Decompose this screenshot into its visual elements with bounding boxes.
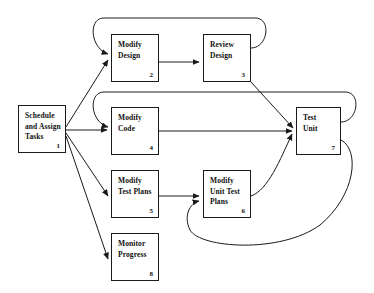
- node-label: Modify Unit Test Plans: [210, 176, 250, 208]
- node-label: Monitor Progress: [118, 239, 158, 260]
- node-test-unit[interactable]: Test Unit 7: [296, 107, 341, 155]
- node-label: Modify Design: [118, 40, 158, 61]
- node-label: Review Design: [210, 40, 250, 61]
- edge-6-to-7: [251, 134, 292, 196]
- node-modify-code[interactable]: Modify Code 4: [111, 107, 159, 155]
- node-modify-test-plans[interactable]: Modify Test Plans 5: [111, 170, 159, 218]
- node-schedule-and-assign-tasks[interactable]: Schedule and Assign Tasks 1: [18, 105, 66, 153]
- node-label: Test Unit: [303, 113, 340, 134]
- edge-1-to-2: [66, 60, 108, 127]
- node-monitor-progress[interactable]: Monitor Progress 8: [111, 233, 159, 281]
- node-label: Modify Code: [118, 113, 158, 134]
- edge-1-to-5: [66, 133, 108, 196]
- node-label: Modify Test Plans: [118, 176, 158, 197]
- node-number: 7: [332, 144, 336, 152]
- node-review-design[interactable]: Review Design 3: [203, 34, 251, 82]
- node-number: 6: [242, 207, 246, 215]
- node-number: 8: [150, 270, 154, 278]
- node-number: 2: [150, 71, 154, 79]
- node-number: 3: [242, 71, 246, 79]
- node-number: 5: [150, 207, 154, 215]
- node-number: 4: [150, 144, 154, 152]
- node-number: 1: [57, 142, 61, 150]
- edge-1-to-8: [66, 136, 108, 259]
- node-label: Schedule and Assign Tasks: [25, 111, 65, 143]
- flowchart-diagram: Schedule and Assign Tasks 1 Modify Desig…: [0, 0, 374, 293]
- edge-3-to-7: [251, 82, 293, 128]
- node-modify-unit-test-plans[interactable]: Modify Unit Test Plans 6: [203, 170, 251, 218]
- node-modify-design[interactable]: Modify Design 2: [111, 34, 159, 82]
